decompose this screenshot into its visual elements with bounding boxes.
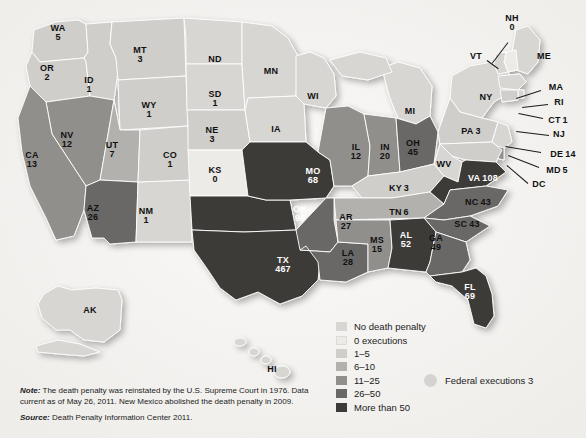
legend-label: 0 executions (354, 335, 407, 346)
legend-row: 1–5 (336, 347, 476, 360)
legend-row: 6–10 (336, 360, 476, 373)
state-shape-OK (190, 196, 296, 232)
source-text: Death Penalty Information Center 2011. (50, 413, 193, 422)
legend-label: 6–10 (354, 361, 375, 372)
state-shape-IA (245, 96, 306, 142)
legend-swatch (336, 376, 347, 385)
legend-swatch (336, 322, 347, 331)
legend-row: More than 50 (336, 400, 476, 413)
note-text: The death penalty was reinstated by the … (20, 386, 308, 406)
legend-label: 26–50 (354, 388, 380, 399)
state-shape-WY (118, 76, 188, 130)
state-shape-MT (110, 18, 186, 80)
state-shape-CT (500, 90, 518, 102)
death-penalty-map-figure: WA5OR2ID1MT3WY1NV12UT7CA13AZ26NM1CO1NDSD… (0, 0, 586, 438)
legend-swatch (336, 336, 347, 345)
legend-label: More than 50 (354, 402, 410, 413)
legend-swatch (336, 362, 347, 371)
legend-label: 11–25 (354, 375, 380, 386)
federal-executions-marker-icon (424, 374, 437, 387)
state-shape-AZ (84, 180, 138, 244)
state-shape-KS (188, 150, 248, 196)
legend-label: No death penalty (354, 321, 426, 332)
legend-row: 0 executions (336, 333, 476, 346)
source-line: Source: Death Penalty Information Center… (20, 413, 335, 422)
note-line: Note: The death penalty was reinstated b… (20, 386, 335, 408)
federal-executions-legend: Federal executions 3 (424, 374, 533, 387)
legend-swatch (336, 403, 347, 412)
map-legend: No death penalty0 executions1–56–1011–25… (336, 320, 476, 414)
state-shape-NE (187, 110, 250, 150)
legend-label: 1–5 (354, 348, 370, 359)
footnotes: Note: The death penalty was reinstated b… (20, 386, 335, 422)
source-prefix: Source: (20, 413, 50, 422)
state-shape-ND (184, 18, 242, 64)
legend-swatch (336, 389, 347, 398)
state-shape-SD (186, 64, 245, 110)
state-shape-NM (136, 180, 192, 242)
state-shape-CO (138, 126, 190, 182)
note-prefix: Note: (20, 386, 40, 395)
legend-row: No death penalty (336, 320, 476, 333)
us-choropleth-map (0, 0, 586, 438)
legend-row: 26–50 (336, 387, 476, 400)
legend-swatch (336, 349, 347, 358)
state-shape-RI (518, 90, 524, 98)
federal-executions-label: Federal executions 3 (445, 375, 533, 386)
state-shape-IN (364, 114, 400, 176)
state-shape-OH (396, 116, 438, 172)
